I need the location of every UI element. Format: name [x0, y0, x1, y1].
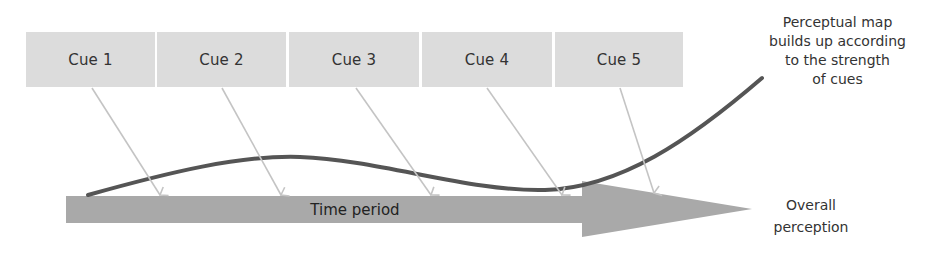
cue-5-connector	[620, 88, 654, 193]
cue-label: Cue 3	[332, 51, 377, 69]
cue-box-1: Cue 1	[26, 32, 155, 87]
cue-box-5: Cue 5	[555, 32, 683, 87]
cue-2-connector	[222, 88, 281, 195]
cue-label: Cue 4	[465, 51, 510, 69]
cue-connectors	[92, 88, 654, 195]
cue-4-connector	[487, 88, 562, 195]
caption-line: Perceptual map	[750, 13, 925, 32]
cue-1-connector	[92, 88, 160, 195]
perceptual-map-caption: Perceptual map builds up according to th…	[750, 13, 925, 89]
caption-line: to the strength	[750, 51, 925, 70]
cue-3-connector	[356, 88, 431, 195]
caption-line: of cues	[750, 70, 925, 89]
overall-perception-caption: Overall perception	[756, 194, 866, 238]
cue-box-2: Cue 2	[157, 32, 286, 87]
perception-curve	[88, 78, 762, 195]
timeline-label: Time period	[275, 201, 435, 219]
cue-box-4: Cue 4	[422, 32, 552, 87]
caption-line: perception	[756, 216, 866, 238]
cue-label: Cue 2	[199, 51, 244, 69]
cue-label: Cue 5	[597, 51, 642, 69]
caption-line: Overall	[756, 194, 866, 216]
cue-box-3: Cue 3	[289, 32, 419, 87]
cue-label: Cue 1	[68, 51, 113, 69]
caption-line: builds up according	[750, 32, 925, 51]
